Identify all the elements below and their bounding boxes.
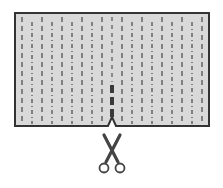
cut-dash	[110, 85, 114, 93]
cut-dash	[110, 109, 114, 117]
cutting-diagram	[0, 0, 223, 188]
cut-dash	[110, 97, 114, 105]
scissors-icon	[100, 135, 125, 173]
